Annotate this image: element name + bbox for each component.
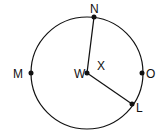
radius-wl — [87, 73, 132, 104]
label-m: M — [13, 67, 23, 81]
radius-wn — [87, 17, 94, 73]
point-l — [130, 102, 135, 107]
circle-diagram: N M W X O L — [0, 0, 163, 136]
label-n: N — [90, 2, 99, 16]
label-l: L — [136, 101, 143, 115]
label-o: O — [146, 67, 155, 81]
point-o — [140, 71, 145, 76]
point-m — [29, 71, 34, 76]
label-x-angle: X — [97, 59, 105, 73]
label-w: W — [74, 67, 86, 81]
